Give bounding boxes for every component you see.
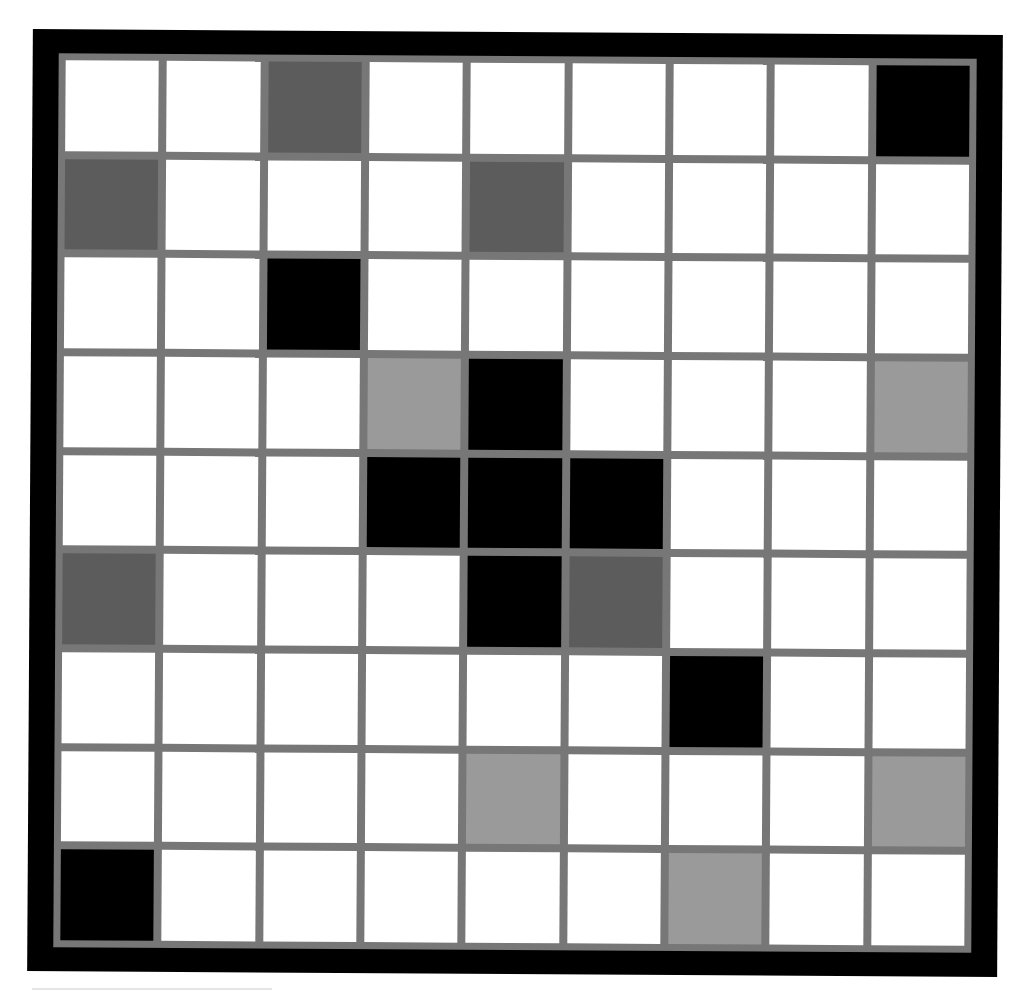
grid-cell-r1-c2[interactable] <box>166 61 260 152</box>
grid-cell-r1-c7[interactable] <box>673 64 767 155</box>
grid-cell-r2-c9[interactable] <box>875 164 969 255</box>
grid-cell-r9-c9[interactable] <box>871 855 965 946</box>
grid-cell-r1-c3[interactable] <box>268 61 362 152</box>
grid-cell-r2-c3[interactable] <box>267 160 361 251</box>
grid-cell-r4-c1[interactable] <box>63 356 157 447</box>
grid-cell-r3-c1[interactable] <box>64 258 158 349</box>
grid-cell-r9-c1[interactable] <box>60 850 154 941</box>
grid-cell-r3-c8[interactable] <box>773 262 867 353</box>
grid-cell-r8-c7[interactable] <box>669 755 763 846</box>
grid-cell-r5-c3[interactable] <box>265 456 359 547</box>
grid-cell-r4-c3[interactable] <box>266 357 360 448</box>
grid-cell-r2-c1[interactable] <box>65 159 159 250</box>
grid-cell-r5-c7[interactable] <box>671 459 765 550</box>
grid-cell-r6-c8[interactable] <box>771 558 865 649</box>
puzzle-stage <box>0 0 1030 997</box>
grid-cell-r5-c2[interactable] <box>164 456 258 547</box>
grid-cell-r2-c6[interactable] <box>571 162 665 253</box>
grid-cell-r2-c8[interactable] <box>774 163 868 254</box>
grid-cell-r5-c1[interactable] <box>63 455 157 546</box>
grid-cell-r6-c3[interactable] <box>265 555 359 646</box>
grid-cell-r7-c7[interactable] <box>670 656 764 747</box>
grid-cell-r3-c9[interactable] <box>875 263 969 354</box>
grid-cell-r3-c4[interactable] <box>368 259 462 350</box>
grid-cell-r4-c4[interactable] <box>367 358 461 449</box>
grid-cell-r8-c6[interactable] <box>568 754 662 845</box>
grid-cell-r7-c9[interactable] <box>872 657 966 748</box>
grid-cell-r5-c8[interactable] <box>772 459 866 550</box>
grid-cell-r6-c9[interactable] <box>873 559 967 650</box>
grid-cell-r6-c5[interactable] <box>467 556 561 647</box>
grid-cell-r8-c9[interactable] <box>872 756 966 847</box>
grid-cell-r2-c2[interactable] <box>166 160 260 251</box>
grid-cell-r4-c6[interactable] <box>570 359 664 450</box>
grid-cell-r9-c2[interactable] <box>162 850 256 941</box>
grid-cell-r5-c4[interactable] <box>367 457 461 548</box>
grid-cell-r7-c1[interactable] <box>62 652 156 743</box>
grid-cell-r9-c6[interactable] <box>567 853 661 944</box>
grid-cell-r6-c2[interactable] <box>163 554 257 645</box>
grid-cell-r3-c2[interactable] <box>165 258 259 349</box>
grid-cell-r1-c4[interactable] <box>369 62 463 153</box>
grid-cell-r9-c7[interactable] <box>668 853 762 944</box>
grid-cell-r1-c6[interactable] <box>572 63 666 154</box>
grid-cell-r7-c4[interactable] <box>366 654 460 745</box>
grid-cell-r7-c8[interactable] <box>771 657 865 748</box>
grid-cell-r6-c6[interactable] <box>569 557 663 648</box>
grid-cell-r7-c5[interactable] <box>467 655 561 746</box>
grid-cell-r1-c1[interactable] <box>65 60 159 151</box>
grid-cell-r1-c5[interactable] <box>470 63 564 154</box>
grid-cell-r8-c8[interactable] <box>770 755 864 846</box>
grid-cell-r5-c5[interactable] <box>468 457 562 548</box>
grid-cell-r9-c4[interactable] <box>364 851 458 942</box>
grid-cell-r3-c7[interactable] <box>672 261 766 352</box>
grid-cell-r4-c7[interactable] <box>671 360 765 451</box>
grid-cell-r4-c9[interactable] <box>874 361 968 452</box>
grid-cell-r9-c5[interactable] <box>466 852 560 943</box>
grid-cell-r8-c1[interactable] <box>61 751 155 842</box>
grid-cell-r9-c3[interactable] <box>263 851 357 942</box>
grid-cell-r1-c9[interactable] <box>876 65 970 156</box>
grid-cell-r6-c7[interactable] <box>670 557 764 648</box>
grid-cell-r5-c9[interactable] <box>873 460 967 551</box>
grid-cell-r7-c3[interactable] <box>264 653 358 744</box>
grid-cell-r4-c5[interactable] <box>469 359 563 450</box>
grid-cell-r7-c2[interactable] <box>163 653 257 744</box>
board-frame <box>27 29 1003 977</box>
grid-cell-r3-c5[interactable] <box>469 260 563 351</box>
grid-cell-r7-c6[interactable] <box>568 655 662 746</box>
grid-cell-r8-c4[interactable] <box>365 753 459 844</box>
grid-cell-r3-c6[interactable] <box>571 261 665 352</box>
caption-fragment <box>32 988 272 990</box>
grid-cell-r4-c8[interactable] <box>773 361 867 452</box>
grid-cell-r8-c2[interactable] <box>162 752 256 843</box>
puzzle-grid <box>53 53 976 953</box>
grid-cell-r9-c8[interactable] <box>770 854 864 945</box>
grid-cell-r2-c5[interactable] <box>470 161 564 252</box>
grid-cell-r2-c4[interactable] <box>369 161 463 252</box>
grid-cell-r4-c2[interactable] <box>165 357 259 448</box>
grid-cell-r3-c3[interactable] <box>267 259 361 350</box>
grid-cell-r2-c7[interactable] <box>673 163 767 254</box>
grid-cell-r5-c6[interactable] <box>569 458 663 549</box>
grid-cell-r1-c8[interactable] <box>774 65 868 156</box>
grid-cell-r8-c5[interactable] <box>466 753 560 844</box>
grid-cell-r6-c1[interactable] <box>62 554 156 645</box>
grid-cell-r8-c3[interactable] <box>264 752 358 843</box>
grid-cell-r6-c4[interactable] <box>366 555 460 646</box>
